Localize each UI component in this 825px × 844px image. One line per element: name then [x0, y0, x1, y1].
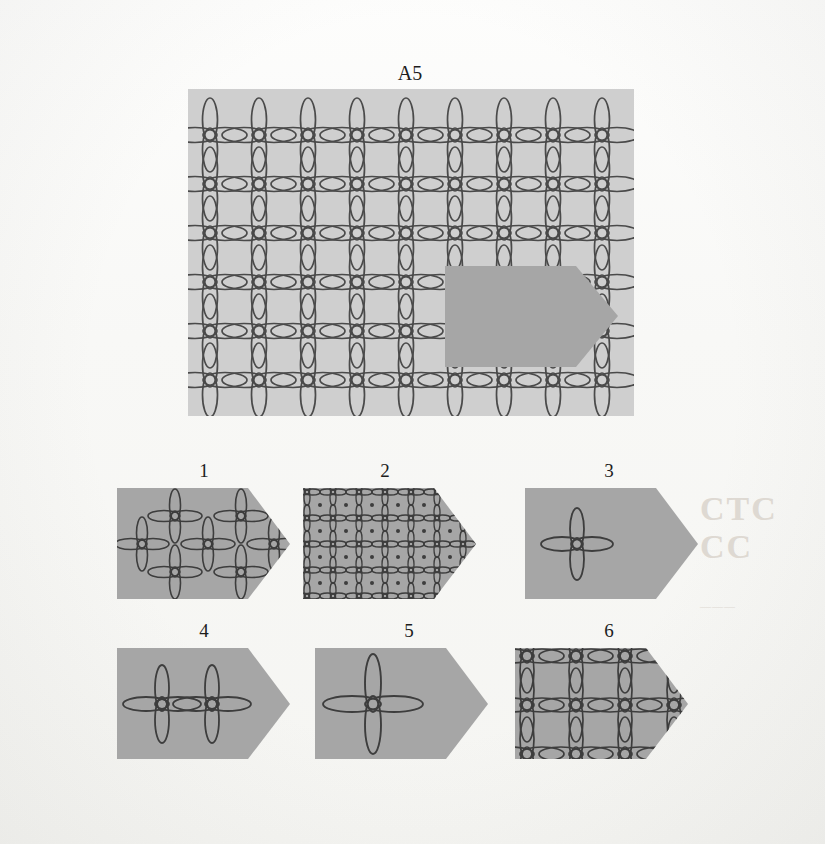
option-5-shape: [315, 648, 488, 759]
option-1-label: 1: [184, 460, 224, 482]
option-3-label: 3: [589, 460, 629, 482]
ghost-text-top: CTC: [700, 490, 778, 528]
main-pattern-panel: [188, 89, 634, 416]
option-2-label: 2: [365, 460, 405, 482]
page-title: A5: [390, 62, 430, 85]
puzzle-page: CTC CC ——— A5: [0, 0, 825, 844]
option-3-shape: [525, 488, 698, 599]
option-5[interactable]: [315, 648, 490, 760]
ghost-text-bottom: CC: [700, 528, 753, 566]
option-4-label: 4: [184, 620, 224, 642]
option-3[interactable]: [525, 488, 700, 600]
option-1[interactable]: [117, 488, 292, 600]
option-6-label: 6: [589, 620, 629, 642]
option-6[interactable]: [515, 648, 690, 760]
option-2[interactable]: [303, 488, 478, 600]
option-4[interactable]: [117, 648, 292, 760]
ghost-text-line: ———: [700, 600, 736, 612]
option-4-shape: [117, 648, 290, 759]
option-5-label: 5: [389, 620, 429, 642]
